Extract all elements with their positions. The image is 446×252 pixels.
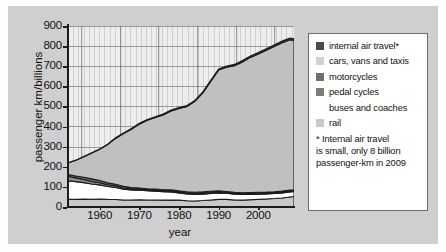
y-tick-mark xyxy=(63,86,67,88)
legend-swatch xyxy=(316,104,324,112)
x-tick-label: 1980 xyxy=(159,209,199,221)
legend-swatch xyxy=(316,57,324,65)
legend-item: buses and coaches xyxy=(316,103,421,113)
legend-footnote: * Internal air travel is small, only 8 b… xyxy=(316,133,421,168)
y-tick-mark xyxy=(63,147,67,149)
y-axis-line xyxy=(67,24,69,208)
x-tick-mark xyxy=(219,206,221,210)
y-tick-mark xyxy=(63,66,67,68)
x-tick-label: 2000 xyxy=(238,209,278,221)
legend-swatch xyxy=(316,42,324,50)
footnote-line-2: is small, only 8 billion xyxy=(316,145,421,157)
x-tick-mark xyxy=(179,206,181,210)
chart-legend: internal air travel*cars, vans and taxis… xyxy=(308,33,428,211)
figure-panel: 0100200300400500600700800900 19601970198… xyxy=(8,6,438,244)
legend-label: pedal cycles xyxy=(329,87,379,97)
legend-swatch xyxy=(316,88,324,96)
legend-item: cars, vans and taxis xyxy=(316,56,421,66)
y-tick-mark xyxy=(63,187,67,189)
stacked-area-series xyxy=(68,26,294,207)
legend-label: rail xyxy=(329,118,341,128)
legend-item: pedal cycles xyxy=(316,87,421,97)
y-tick-mark xyxy=(63,167,67,169)
y-tick-label: 0 xyxy=(8,200,62,212)
x-tick-mark xyxy=(100,206,102,210)
x-tick-mark xyxy=(258,206,260,210)
x-tick-mark xyxy=(139,206,141,210)
y-axis-label: passenger km/billions xyxy=(32,22,44,192)
y-tick-mark xyxy=(63,46,67,48)
legend-label: internal air travel* xyxy=(329,41,399,51)
x-tick-label: 1970 xyxy=(119,209,159,221)
y-tick-mark xyxy=(63,127,67,129)
legend-item: rail xyxy=(316,118,421,128)
x-tick-label: 1990 xyxy=(199,209,239,221)
y-tick-mark xyxy=(63,207,67,209)
legend-label: cars, vans and taxis xyxy=(329,56,409,66)
footnote-line-3: passenger-km in 2009 xyxy=(316,157,421,169)
area-band xyxy=(68,40,294,193)
y-tick-mark xyxy=(63,106,67,108)
plot-area xyxy=(68,26,294,207)
legend-item: internal air travel* xyxy=(316,41,421,51)
legend-items: internal air travel*cars, vans and taxis… xyxy=(316,41,421,128)
legend-swatch xyxy=(316,73,324,81)
footnote-line-1: * Internal air travel xyxy=(316,133,421,145)
x-tick-label: 1960 xyxy=(80,209,120,221)
x-axis-label: year xyxy=(140,226,220,238)
chart-figure: 0100200300400500600700800900 19601970198… xyxy=(0,0,446,252)
legend-swatch xyxy=(316,119,324,127)
legend-item: motorcycles xyxy=(316,72,421,82)
legend-label: buses and coaches xyxy=(329,103,407,113)
legend-label: motorcycles xyxy=(329,72,377,82)
y-tick-mark xyxy=(63,26,67,28)
